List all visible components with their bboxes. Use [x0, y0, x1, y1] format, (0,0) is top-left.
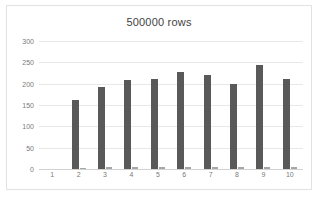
bar — [264, 167, 270, 169]
bar-pair — [277, 41, 303, 169]
y-axis-tick-label: 0 — [30, 166, 34, 173]
bar-category-slot — [118, 41, 144, 169]
bar — [124, 80, 131, 169]
y-axis-tick-label: 250 — [22, 59, 34, 66]
bar — [106, 167, 112, 169]
bar — [230, 84, 237, 169]
bar-pair — [250, 41, 276, 169]
bar — [151, 79, 158, 169]
bar — [283, 79, 290, 169]
bar-category-slot — [92, 41, 118, 169]
y-axis-tick-label: 50 — [26, 144, 34, 151]
x-axis: 12345678910 — [39, 171, 303, 178]
bar-category-slot — [250, 41, 276, 169]
bar — [98, 87, 105, 169]
bar — [185, 167, 191, 169]
bar-category-slot — [277, 41, 303, 169]
bar — [72, 100, 79, 169]
y-axis-tick-label: 150 — [22, 102, 34, 109]
bar — [177, 72, 184, 169]
bar-pair — [39, 41, 65, 169]
bar-category-slot — [145, 41, 171, 169]
gridline: 0 — [39, 169, 303, 170]
x-axis-tick-label: 1 — [39, 171, 65, 178]
bar-pair — [171, 41, 197, 169]
bar — [204, 75, 211, 169]
bar-pair — [224, 41, 250, 169]
x-axis-tick-label: 3 — [92, 171, 118, 178]
bar-pair — [145, 41, 171, 169]
bar — [256, 65, 263, 169]
bar — [80, 168, 86, 169]
x-axis-tick-label: 8 — [224, 171, 250, 178]
y-axis-tick-label: 200 — [22, 80, 34, 87]
x-axis-tick-label: 7 — [197, 171, 223, 178]
x-axis-tick-label: 4 — [118, 171, 144, 178]
bar-category-slot — [197, 41, 223, 169]
bar-pair — [92, 41, 118, 169]
bar — [291, 167, 297, 169]
bar — [238, 167, 244, 169]
bar — [159, 167, 165, 169]
plot-area: 300250200150100500 — [39, 41, 303, 169]
y-axis-tick-label: 100 — [22, 123, 34, 130]
bar-pair — [197, 41, 223, 169]
chart-container: 500000 rows 300250200150100500 123456789… — [6, 5, 312, 190]
bar-group — [39, 41, 303, 169]
bar-category-slot — [65, 41, 91, 169]
bar-pair — [65, 41, 91, 169]
bar-category-slot — [39, 41, 65, 169]
x-axis-tick-label: 10 — [277, 171, 303, 178]
bar — [212, 167, 218, 169]
bar-pair — [118, 41, 144, 169]
x-axis-tick-label: 2 — [65, 171, 91, 178]
bar-category-slot — [171, 41, 197, 169]
y-axis-tick-label: 300 — [22, 38, 34, 45]
bar-category-slot — [224, 41, 250, 169]
chart-title: 500000 rows — [7, 16, 311, 28]
bar — [132, 167, 138, 169]
x-axis-tick-label: 5 — [145, 171, 171, 178]
x-axis-tick-label: 9 — [250, 171, 276, 178]
x-axis-tick-label: 6 — [171, 171, 197, 178]
